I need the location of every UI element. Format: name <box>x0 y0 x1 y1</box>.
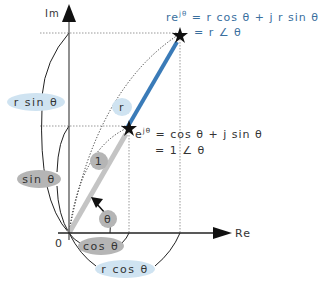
rotation-arrowhead-icon <box>91 197 103 208</box>
unit-lhs: e <box>135 128 143 141</box>
sin-label: sin θ <box>17 170 61 188</box>
r-magnitude-label: r <box>112 98 132 116</box>
cos-label: cos θ <box>78 237 124 255</box>
real-axis-arrowhead-icon <box>213 227 232 239</box>
r-sin-brace-top <box>42 33 69 96</box>
imaginary-axis-label: Im <box>45 8 60 19</box>
real-axis-label: Re <box>235 227 251 240</box>
r-cos-brace-right <box>155 233 180 266</box>
r-sin-label: r sin θ <box>7 93 65 111</box>
cos-brace-left <box>69 233 80 243</box>
general-lhs: re <box>166 11 179 24</box>
unit-magnitude-label: 1 <box>90 152 108 170</box>
imaginary-axis-arrowhead-icon <box>62 4 76 22</box>
cos-brace-right <box>122 233 129 243</box>
unit-vector <box>69 134 126 233</box>
general-rhs: = r cos θ + j r sin θ <box>192 11 319 24</box>
unit-euler-equation: ejθ = cos θ + j sin θ <box>135 127 263 141</box>
sin-brace-top <box>57 126 69 172</box>
r-vector <box>127 42 177 128</box>
general-polar-form: = r ∠ θ <box>194 26 242 39</box>
origin-label: 0 <box>55 237 63 250</box>
r-point-star-icon <box>172 27 188 43</box>
unit-rhs: = cos θ + j sin θ <box>156 128 263 141</box>
r-cos-label: r cos θ <box>95 260 155 278</box>
theta-angle-label: θ <box>99 210 117 228</box>
general-exponent: jθ <box>179 10 187 18</box>
unit-polar-form: = 1 ∠ θ <box>155 144 205 157</box>
unit-exponent: jθ <box>143 127 151 135</box>
general-euler-equation: rejθ = r cos θ + j r sin θ <box>166 10 319 24</box>
